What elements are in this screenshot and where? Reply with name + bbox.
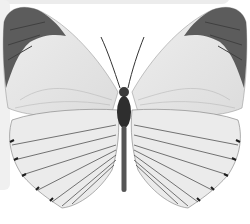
right-forewing bbox=[132, 7, 247, 116]
butterfly-body bbox=[117, 87, 131, 192]
butterfly-image bbox=[0, 0, 250, 224]
left-hindwing bbox=[10, 109, 119, 208]
left-forewing bbox=[3, 7, 118, 116]
right-hindwing bbox=[131, 109, 240, 208]
